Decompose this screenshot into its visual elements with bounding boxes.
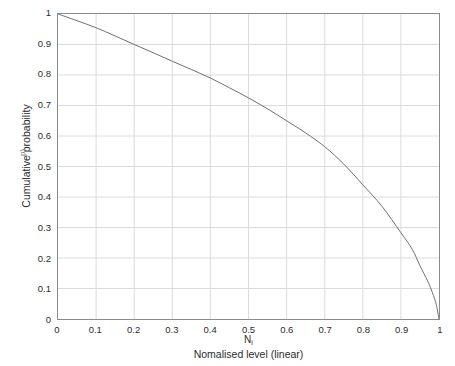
- plot-area: [57, 13, 440, 320]
- y-tick-label: 1: [3, 8, 51, 18]
- x-axis-label: Nomalised level (linear): [57, 348, 440, 360]
- x-axis-label-group: Ni Nomalised level (linear): [57, 334, 440, 360]
- x-axis-symbol: Ni: [57, 334, 440, 348]
- y-tick-label: 0: [3, 315, 51, 325]
- cumulative-probability-curve: [58, 14, 439, 319]
- y-tick-label: 0.1: [3, 284, 51, 294]
- chart-figure: 00.10.20.30.40.50.60.70.80.91 Cumulative…: [0, 0, 455, 366]
- y-axis-label-artifact: p): [18, 149, 27, 156]
- x-axis-symbol-subscript: i: [251, 339, 253, 346]
